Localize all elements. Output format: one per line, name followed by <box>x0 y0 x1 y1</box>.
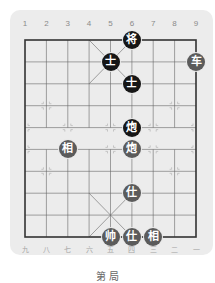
col-number-cn: 八 <box>39 244 53 254</box>
col-number-cn: 四 <box>125 244 139 254</box>
black-advisor-piece[interactable]: 士 <box>102 53 120 71</box>
col-number-cn: 五 <box>104 244 118 254</box>
col-number-cn: 三 <box>146 244 160 254</box>
col-number-cn: 七 <box>61 244 75 254</box>
red-chariot-piece[interactable]: 车 <box>187 53 205 71</box>
black-cannon-piece[interactable]: 炮 <box>123 119 141 137</box>
col-number-cn: 九 <box>18 244 32 254</box>
black-general-piece[interactable]: 将 <box>123 31 141 49</box>
col-number-cn: 一 <box>189 244 203 254</box>
red-advisor-piece[interactable]: 仕 <box>123 184 141 202</box>
board-caption: 第 局 <box>0 268 215 283</box>
col-number-cn: 六 <box>82 244 96 254</box>
black-advisor-piece[interactable]: 士 <box>123 75 141 93</box>
col-number-cn: 二 <box>168 244 182 254</box>
